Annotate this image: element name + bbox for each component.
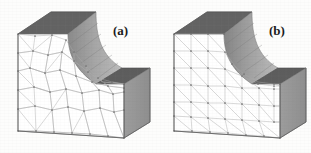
figure-panel-b: (b): [156, 0, 311, 153]
figure-panel-a: (a): [0, 0, 155, 153]
panel-label-b: (b): [269, 23, 285, 39]
mesh-rendering-b: [156, 0, 311, 153]
mesh-rendering-a: [0, 0, 155, 153]
panel-label-a: (a): [113, 23, 128, 39]
figure-root: (a): [0, 0, 311, 153]
